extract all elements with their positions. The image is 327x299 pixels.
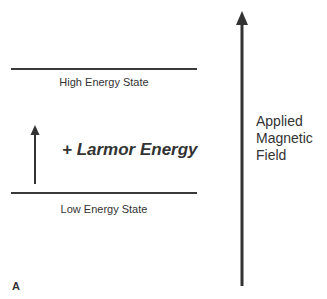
field-label-line-1: Applied	[256, 113, 313, 130]
larmor-energy-label: + Larmor Energy	[62, 140, 198, 160]
field-label-line-3: Field	[256, 147, 313, 164]
field-label-line-2: Magnetic	[256, 130, 313, 147]
panel-letter: A	[12, 280, 20, 292]
applied-magnetic-field-label: Applied Magnetic Field	[256, 113, 313, 164]
magnetic-field-arrow-icon	[236, 11, 248, 286]
transition-arrow-icon	[31, 125, 40, 184]
